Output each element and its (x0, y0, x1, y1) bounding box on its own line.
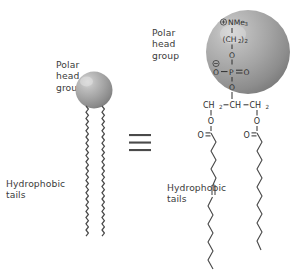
right-head-sphere (206, 10, 290, 94)
left-schematic-model (76, 72, 113, 237)
acyl-chain-sn1-lower (208, 197, 213, 269)
choline-nme-label: NMe (228, 18, 245, 27)
glycerol-c1-subscript: 2 (219, 104, 223, 110)
left-tail-1 (86, 106, 88, 236)
carbonyl-oxygen-sn1: O (198, 131, 204, 140)
glycerol-c3: CH (250, 101, 262, 110)
phosphate-anion-oxygen: O (213, 68, 219, 77)
ethylene-subscript-b: 2 (245, 38, 248, 44)
carbonyl-oxygen-sn2: O (244, 131, 250, 140)
right-chemical-structure: NMe 3 (CH 2 ) 2 O O (198, 10, 291, 269)
glycerol-c2: CH (230, 101, 242, 110)
phosphate-double-bond-oxygen: O (244, 68, 250, 77)
carbonyl-groups: O O (198, 131, 257, 140)
ethylene-open-label: (CH (223, 35, 237, 44)
diagram-graphics: NMe 3 (CH 2 ) 2 O O (0, 0, 295, 275)
choline-nme-subscript: 3 (245, 21, 248, 27)
ester-oxygen-sn1: O (208, 117, 214, 126)
phosphate-lower-oxygen: O (229, 83, 235, 92)
phospholipid-diagram: Polar head group Hydrophobic tails Polar… (0, 0, 295, 275)
left-tail-2 (102, 106, 104, 236)
ester-oxygen-sn2: O (254, 117, 260, 126)
phosphorus-atom: P (229, 68, 234, 77)
left-head-sphere (76, 72, 113, 109)
acyl-chain-sn2 (257, 133, 262, 250)
equivalence-symbol (129, 134, 151, 151)
cis-double-bond-marker (212, 185, 215, 195)
acyl-chain-sn1-upper (211, 133, 216, 186)
phosphate-upper-oxygen: O (229, 51, 235, 60)
left-head-highlight (80, 77, 93, 87)
glycerol-backbone: CH 2 CH CH 2 O O (203, 101, 269, 132)
glycerol-c3-subscript: 2 (266, 104, 270, 110)
glycerol-c1: CH (203, 101, 215, 110)
